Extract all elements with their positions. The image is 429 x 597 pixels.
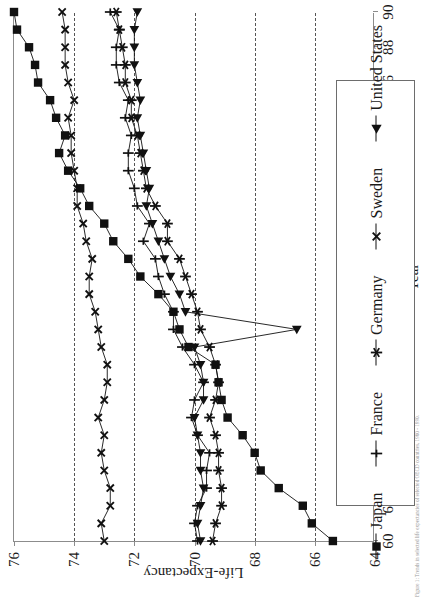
legend-label: Sweden [367, 168, 385, 219]
marker-filled-triangle [199, 396, 209, 405]
marker-filled-square [10, 8, 18, 16]
marker-filled-square [250, 449, 258, 457]
legend-label: France [367, 392, 385, 436]
marker-x [71, 97, 78, 104]
marker-asterisk [150, 202, 161, 210]
marker-filled-square [109, 237, 117, 245]
marker-plus [123, 167, 134, 174]
marker-filled-square [13, 25, 21, 33]
marker-filled-square [372, 543, 380, 551]
marker-asterisk [210, 431, 221, 439]
marker-plus [153, 273, 164, 280]
marker-plus [138, 238, 149, 245]
legend-filled-triangle-icon [376, 116, 377, 142]
marker-x [95, 414, 102, 421]
marker-filled-square [256, 466, 264, 474]
marker-filled-square [31, 61, 39, 69]
marker-asterisk [210, 519, 221, 527]
marker-filled-triangle [142, 202, 152, 211]
marker-filled-square [100, 219, 108, 227]
legend-item-france[interactable]: France [367, 392, 385, 467]
marker-filled-square [275, 484, 283, 492]
series-line [62, 12, 110, 541]
marker-filled-triangle [132, 79, 142, 88]
marker-filled-triangle [196, 449, 206, 458]
marker-filled-square [55, 149, 63, 157]
marker-filled-triangle [175, 290, 185, 299]
legend-label: Germany [367, 275, 385, 335]
figure-caption-text: Figure 1: Trends in selected life expect… [414, 0, 429, 597]
legend-items: JapanFranceGermanySwedenUnited States [338, 81, 415, 505]
marker-filled-triangle [129, 26, 139, 35]
legend-item-sweden[interactable]: Sweden [367, 168, 385, 250]
series-line [14, 12, 333, 541]
marker-filled-triangle [129, 44, 139, 53]
marker-plus [370, 450, 381, 458]
series-japan [10, 8, 337, 545]
marker-filled-square [52, 114, 60, 122]
y-axis-title: Life-Expectancy [13, 564, 374, 581]
figure-caption: Figure 1: Trends in selected life expect… [414, 0, 429, 597]
legend-item-united-states[interactable]: United States [367, 25, 385, 142]
marker-filled-triangle [160, 255, 170, 264]
y-tick [255, 541, 256, 546]
marker-filled-square [329, 537, 337, 545]
series-sweden [59, 8, 114, 544]
marker-asterisk [370, 349, 381, 358]
marker-filled-triangle [135, 97, 145, 106]
marker-filled-square [223, 413, 231, 421]
marker-filled-square [238, 431, 246, 439]
marker-x [372, 233, 380, 241]
marker-filled-square [25, 43, 33, 51]
y-tick [74, 541, 75, 546]
marker-filled-triangle [166, 273, 176, 282]
marker-filled-square [299, 502, 307, 510]
marker-plus [132, 202, 143, 209]
legend-filled-square-icon [376, 534, 377, 560]
legend-box: JapanFranceGermanySwedenUnited States [336, 80, 415, 506]
legend-label: Japan [367, 493, 385, 529]
marker-filled-square [85, 202, 93, 210]
legend-x-icon [376, 223, 377, 249]
marker-asterisk [111, 8, 122, 16]
marker-asterisk [180, 272, 191, 280]
marker-filled-triangle [371, 125, 381, 134]
marker-asterisk [204, 413, 215, 421]
marker-asterisk [174, 255, 185, 263]
plot-area: 60626466687072747678808284868890 6466687… [13, 13, 374, 542]
y-tick [134, 541, 135, 546]
marker-filled-square [124, 255, 132, 263]
marker-filled-square [46, 96, 54, 104]
marker-filled-triangle [154, 238, 164, 247]
series-france [105, 8, 215, 544]
marker-filled-triangle [132, 8, 142, 17]
legend-item-japan[interactable]: Japan [367, 493, 385, 560]
marker-filled-square [308, 519, 316, 527]
data-series-layer [14, 12, 375, 541]
x-tick-label: 90 [380, 4, 397, 19]
marker-asterisk [195, 325, 206, 333]
marker-plus [189, 396, 200, 403]
y-tick [14, 541, 15, 546]
marker-asterisk [117, 43, 128, 51]
legend-item-germany[interactable]: Germany [367, 275, 385, 366]
marker-asterisk [186, 290, 197, 298]
legend-asterisk-icon [376, 340, 377, 366]
legend-label: United States [367, 25, 385, 111]
legend-plus-icon [376, 441, 377, 467]
marker-filled-square [136, 272, 144, 280]
marker-plus [123, 149, 134, 156]
marker-asterisk [207, 537, 218, 545]
marker-plus [150, 255, 161, 262]
y-tick [315, 541, 316, 546]
marker-filled-square [34, 78, 42, 86]
marker-plus [129, 185, 140, 192]
marker-filled-triangle [129, 61, 139, 70]
